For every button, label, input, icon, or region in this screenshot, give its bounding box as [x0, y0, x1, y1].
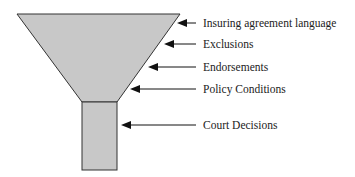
arrow-endorsements [148, 63, 196, 71]
arrow-exclusions [164, 40, 196, 48]
arrow-policy-conditions [130, 85, 196, 93]
funnel-diagram: Insuring agreement language Exclusions E… [0, 0, 355, 177]
label-insuring-agreement: Insuring agreement language [203, 17, 336, 30]
label-court-decisions: Court Decisions [203, 119, 278, 131]
label-endorsements: Endorsements [203, 61, 269, 73]
label-exclusions: Exclusions [203, 38, 254, 50]
arrow-insuring-agreement [177, 19, 196, 27]
funnel-spout [82, 102, 117, 170]
arrow-court-decisions [121, 121, 196, 129]
label-policy-conditions: Policy Conditions [203, 83, 286, 96]
